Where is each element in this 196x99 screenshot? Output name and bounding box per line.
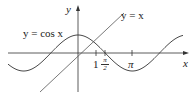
y-axis-arrow-icon [76,5,80,11]
x-axis-label: x [183,58,188,69]
cosine-label: y = cos x [23,28,63,39]
y-axis-label: y [66,4,71,15]
tick-label-pi: π [128,59,134,70]
tick-label-half-pi-denominator: 2 [101,65,109,72]
identity-line-label: y = x [121,10,144,21]
x-axis-arrow-icon [183,51,189,55]
tick-label-1: 1 [93,59,99,70]
identity-line [40,13,124,92]
graph-canvas [0,0,196,99]
